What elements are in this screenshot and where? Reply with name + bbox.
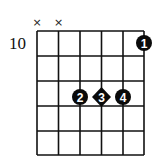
finger-diamond-3-root: 3 — [92, 87, 111, 107]
mute-marker-string-1: × — [32, 16, 41, 29]
finger-number: 2 — [77, 91, 84, 105]
finger-dot-4: 4 — [115, 89, 131, 105]
mute-marker-string-2: × — [54, 16, 63, 29]
finger-dot-2: 2 — [72, 89, 88, 105]
finger-number: 4 — [120, 91, 127, 105]
finger-number: 3 — [98, 91, 105, 105]
finger-number: 1 — [141, 37, 148, 51]
start-fret-label: 10 — [9, 34, 26, 53]
finger-dot-1: 1 — [136, 35, 152, 51]
chord-diagram: 10 × × 1 2 3 4 — [0, 0, 164, 164]
